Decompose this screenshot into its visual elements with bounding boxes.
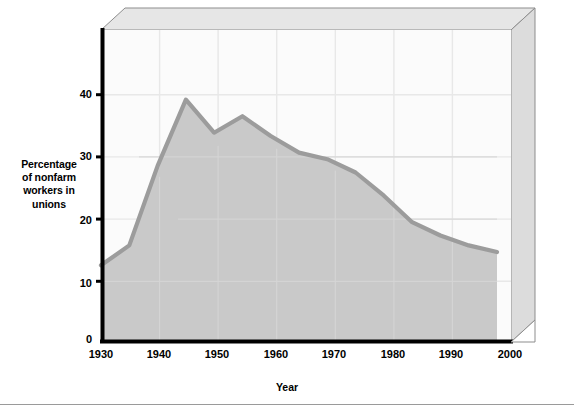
frame-top-face xyxy=(101,8,535,30)
footer-rule xyxy=(0,404,574,405)
frame-right-face xyxy=(511,8,535,342)
y-axis-tick-marks xyxy=(96,95,101,282)
plot-canvas xyxy=(0,0,574,411)
union-membership-area-chart: Percentage of nonfarm workers in unions … xyxy=(0,0,574,411)
